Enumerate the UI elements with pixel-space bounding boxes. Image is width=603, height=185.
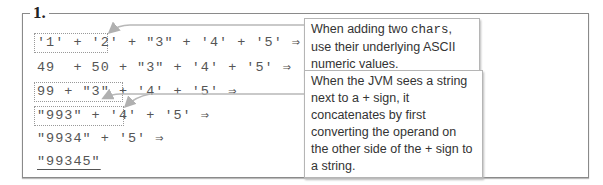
arrow-to-993-plus-4 [126, 94, 150, 106]
callout-char-addition: When adding two chars, use their underly… [304, 18, 480, 76]
arrow-to-99-plus-3 [104, 94, 305, 98]
arrow-to-chars [110, 25, 305, 32]
callout-arrows [0, 0, 603, 185]
callout-string-concatenation: When the JVM sees a string next to a + s… [304, 70, 483, 178]
chars-keyword: chars [411, 23, 449, 37]
